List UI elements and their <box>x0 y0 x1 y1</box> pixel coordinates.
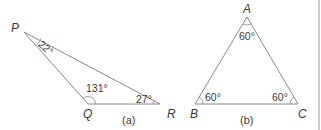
angle-label-a: 60° <box>239 30 255 42</box>
caption-a: (a) <box>122 114 135 126</box>
triangle-pqr: P Q R 22° 131° 27° (a) <box>11 21 176 126</box>
vertex-label-c: C <box>298 107 307 121</box>
angle-arc-a <box>243 24 251 25</box>
angle-label-b: 60° <box>205 91 221 103</box>
angle-label-c: 60° <box>272 91 288 103</box>
vertex-label-b: B <box>190 107 198 121</box>
angle-label-q: 131° <box>86 82 108 94</box>
vertex-label-q: Q <box>83 107 92 121</box>
vertex-label-r: R <box>167 107 176 121</box>
angle-arc-b <box>199 97 203 104</box>
diagram-canvas: P Q R 22° 131° 27° (a) A B C 60° 60° 60°… <box>0 0 321 130</box>
angle-label-r: 27° <box>136 93 152 105</box>
angle-arc-c <box>290 97 294 104</box>
caption-b: (b) <box>240 114 253 126</box>
vertex-label-a: A <box>242 2 251 16</box>
angle-label-p: 22° <box>36 38 56 58</box>
triangle-abc: A B C 60° 60° 60° (b) <box>190 2 307 126</box>
vertex-label-p: P <box>11 21 19 35</box>
